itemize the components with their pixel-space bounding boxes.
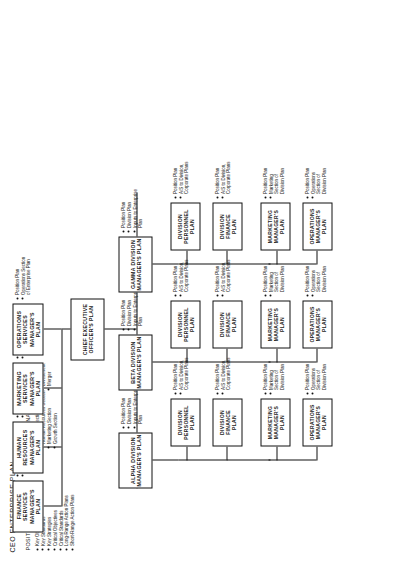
functional-manager-box-3[interactable]: OPERATIONS SERVICES MANAGER'S PLAN xyxy=(12,303,43,355)
position-plan-item: Critical Objectives xyxy=(52,440,58,550)
division-finance-box-1-bullets: Position PlanA/S to Division, Corporate … xyxy=(214,254,231,296)
division-finance-box-2-title: DIVISION FINANCE PLAN xyxy=(218,214,237,239)
subplan-branch-a1-2 xyxy=(186,250,187,264)
functional-manager-box-3-title: OPERATIONS SERVICES MANAGER'S PLAN xyxy=(15,305,41,353)
operations-manager-box-1[interactable]: OPERATIONS MANAGER'S PLAN xyxy=(302,300,332,348)
operations-manager-box-2-bullet: Position Plan xyxy=(304,156,310,198)
division-down-0 xyxy=(152,459,178,460)
marketing-manager-box-0[interactable]: MARKETING MANAGER'S PLAN xyxy=(260,398,290,446)
rotated-page: CEO ENTERPRISE PLAN POSITION PLAN Key Ob… xyxy=(0,0,415,566)
division-personnel-box-1[interactable]: DIVISION PERSONNEL PLAN xyxy=(170,300,200,348)
marketing-manager-box-2-title: MARKETING MANAGER'S PLAN xyxy=(266,209,285,243)
division-personnel-box-0-title: DIVISION PERSONNEL PLAN xyxy=(176,405,195,439)
marketing-manager-box-1-title: MARKETING MANAGER'S PLAN xyxy=(266,307,285,341)
marketing-manager-box-0-bullet: Position Plan xyxy=(262,352,268,394)
operations-manager-box-1-bullet: Operations Section of Division Plan xyxy=(310,254,327,296)
division-box-1-bullet: Division Plan xyxy=(126,286,132,330)
subplan-branch-b2-2 xyxy=(316,250,317,264)
operations-manager-box-2-bullets: Position PlanOperations Section of Divis… xyxy=(304,156,327,198)
division-finance-box-1-title: DIVISION FINANCE PLAN xyxy=(218,312,237,337)
subplan-spine-b-0 xyxy=(268,459,316,460)
division-personnel-box-2[interactable]: DIVISION PERSONNEL PLAN xyxy=(170,202,200,250)
functional-manager-box-2[interactable]: MARKETING SERVICES MANAGER'S PLAN xyxy=(12,362,43,414)
operations-manager-box-2[interactable]: OPERATIONS MANAGER'S PLAN xyxy=(302,202,332,250)
division-finance-box-0-title: DIVISION FINANCE PLAN xyxy=(218,410,237,435)
division-personnel-box-2-title: DIVISION PERSONNEL PLAN xyxy=(176,209,195,243)
division-finance-box-2-bullet: A/S to Division, Corporate Plans xyxy=(220,156,231,198)
division-finance-box-0-bullets: Position PlanA/S to Division, Corporate … xyxy=(214,352,231,394)
operations-manager-box-0-bullet: Position Plan xyxy=(304,352,310,394)
ceo-box[interactable]: CHIEF EXECUTIVE OFFICER'S PLAN xyxy=(70,298,104,360)
division-personnel-box-0-bullet: Position Plan xyxy=(172,352,178,394)
division-finance-box-0-bullet: A/S to Division, Corporate Plans xyxy=(220,352,231,394)
operations-manager-box-2-bullet: Operations Section of Division Plan xyxy=(310,156,327,198)
subplan-branch-b1-1 xyxy=(276,348,277,362)
division-box-1-bullets: Position PlanDivision PlanInputs to Ente… xyxy=(120,286,143,330)
subplan-spine-a-0 xyxy=(178,459,226,460)
ceo-up-connector xyxy=(61,329,70,330)
subplan-branch-a1-0 xyxy=(186,446,187,460)
operations-manager-box-2-title: OPERATIONS MANAGER'S PLAN xyxy=(308,208,327,244)
ceo-title: CHIEF EXECUTIVE OFFICER'S PLAN xyxy=(81,300,94,358)
subplan-spine-b-2 xyxy=(268,263,316,264)
org-chart-canvas: CEO ENTERPRISE PLAN POSITION PLAN Key Ob… xyxy=(0,0,415,566)
operations-manager-box-0-bullet: Operations Section of Division Plan xyxy=(310,352,327,394)
functional-manager-box-3-bullet: Operations Section of Enterprise Plan xyxy=(20,249,31,299)
division-box-2-bullet: Division Plan xyxy=(126,188,132,232)
division-box-2[interactable]: GAMMA DIVISION MANAGER'S PLAN xyxy=(118,236,152,292)
subplan-branch-a2-2 xyxy=(226,250,227,264)
marketing-manager-box-0-bullets: Position PlanMarketing Section of Divisi… xyxy=(262,352,285,394)
division-personnel-box-0-bullet: A/S to Division, Corporate Plans xyxy=(178,352,189,394)
division-box-1[interactable]: BETA DIVISION MANAGER'S PLAN xyxy=(118,334,152,390)
subplan-link-2 xyxy=(226,263,270,264)
subplan-spine-a-2 xyxy=(178,263,226,264)
division-finance-box-1-bullet: Position Plan xyxy=(214,254,220,296)
marketing-manager-box-2-bullets: Position PlanMarketing Section of Divisi… xyxy=(262,156,285,198)
position-plan-item: Long-Range Action Plans xyxy=(63,440,69,550)
division-finance-box-1[interactable]: DIVISION FINANCE PLAN xyxy=(212,300,242,348)
division-box-0-title: ALPHA DIVISION MANAGER'S PLAN xyxy=(129,434,142,486)
subplan-branch-b1-0 xyxy=(276,446,277,460)
functional-manager-box-2-title: MARKETING SERVICES MANAGER'S PLAN xyxy=(15,364,41,412)
operations-manager-box-1-bullets: Position PlanOperations Section of Divis… xyxy=(304,254,327,296)
functional-manager-box-1-title: HUMAN RESOURCES MANAGER'S PLAN xyxy=(15,423,41,471)
position-plan-item: Short-Range Action Plans xyxy=(69,440,75,550)
subplan-link-1 xyxy=(226,361,270,362)
subplan-branch-a1-1 xyxy=(186,348,187,362)
functional-manager-box-3-bullet: Position Plan xyxy=(14,249,20,299)
marketing-manager-box-1[interactable]: MARKETING MANAGER'S PLAN xyxy=(260,300,290,348)
division-finance-box-0-bullet: Position Plan xyxy=(214,352,220,394)
division-box-0[interactable]: ALPHA DIVISION MANAGER'S PLAN xyxy=(118,432,152,488)
operations-manager-box-0[interactable]: OPERATIONS MANAGER'S PLAN xyxy=(302,398,332,446)
operations-manager-box-1-title: OPERATIONS MANAGER'S PLAN xyxy=(308,306,327,342)
division-box-0-bullets: Position PlanDivision PlanInputs to Ente… xyxy=(120,384,143,428)
division-personnel-box-0[interactable]: DIVISION PERSONNEL PLAN xyxy=(170,398,200,446)
operations-manager-box-1-bullet: Position Plan xyxy=(304,254,310,296)
division-personnel-box-1-title: DIVISION PERSONNEL PLAN xyxy=(176,307,195,341)
division-box-1-bullet: Position Plan xyxy=(120,286,126,330)
division-box-1-title: BETA DIVISION MANAGER'S PLAN xyxy=(129,336,142,388)
division-finance-box-2-bullet: Position Plan xyxy=(214,156,220,198)
functional-plan-subitem: Merger xyxy=(46,330,52,390)
marketing-manager-box-2-bullet: Position Plan xyxy=(262,156,268,198)
functional-manager-box-1[interactable]: HUMAN RESOURCES MANAGER'S PLAN xyxy=(12,421,43,473)
fn-drop-3 xyxy=(43,329,61,330)
marketing-manager-box-2[interactable]: MARKETING MANAGER'S PLAN xyxy=(260,202,290,250)
functional-manager-box-0-title: FINANCE SERVICES MANAGER'S PLAN xyxy=(15,482,41,530)
division-finance-box-2-bullets: Position PlanA/S to Division, Corporate … xyxy=(214,156,231,198)
subplan-spine-a-1 xyxy=(178,361,226,362)
division-box-2-bullet: Position Plan xyxy=(120,188,126,232)
division-box-1-bullet: Inputs to Enterprise Plan xyxy=(132,286,143,330)
division-box-0-bullet: Position Plan xyxy=(120,384,126,428)
division-box-2-bullets: Position PlanDivision PlanInputs to Ente… xyxy=(120,188,143,232)
marketing-manager-box-1-bullet: Position Plan xyxy=(262,254,268,296)
functional-manager-box-0[interactable]: FINANCE SERVICES MANAGER'S PLAN xyxy=(12,480,43,532)
division-personnel-box-1-bullet: Position Plan xyxy=(172,254,178,296)
division-box-0-bullet: Inputs to Enterprise Plan xyxy=(132,384,143,428)
subplan-branch-b2-1 xyxy=(316,348,317,362)
subplan-branch-a2-1 xyxy=(226,348,227,362)
functional-manager-box-3-bullets: Position PlanOperations Section of Enter… xyxy=(14,249,31,299)
division-finance-box-0[interactable]: DIVISION FINANCE PLAN xyxy=(212,398,242,446)
division-finance-box-2[interactable]: DIVISION FINANCE PLAN xyxy=(212,202,242,250)
fn-drop-2 xyxy=(43,387,61,388)
